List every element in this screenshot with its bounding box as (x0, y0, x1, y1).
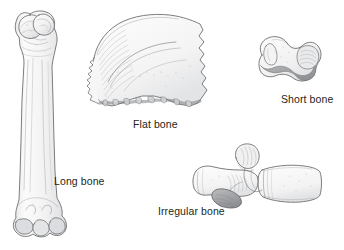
label-short-bone: Short bone (281, 93, 333, 105)
label-irregular-bone: Irregular bone (158, 205, 225, 217)
intercondylar-area (33, 220, 49, 236)
short-bone-illustration (259, 37, 321, 81)
long-bone-illustration (13, 11, 66, 237)
irregular-bone-illustration (193, 144, 322, 208)
superior-articular-process (235, 144, 259, 169)
long-bone-outline (13, 11, 66, 237)
medial-condyle (15, 219, 33, 234)
label-flat-bone: Flat bone (133, 118, 178, 130)
vertebral-body (258, 165, 322, 202)
label-long-bone: Long bone (54, 175, 105, 187)
lateral-condyle (49, 218, 65, 234)
bone-classification-figure: Long bone Flat bone Short bone Irregular… (0, 0, 344, 250)
flat-bone-illustration (87, 14, 207, 106)
flat-bone-outline (92, 14, 207, 106)
